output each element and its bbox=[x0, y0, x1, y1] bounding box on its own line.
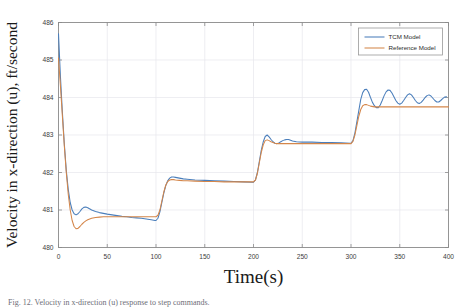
legend-label-reference-model[interactable]: Reference Model bbox=[389, 44, 436, 51]
y-tick-label: 484 bbox=[42, 94, 53, 101]
y-axis-label: Velocity in x-direction (u), ft/second bbox=[3, 22, 21, 248]
x-tick-label: 300 bbox=[345, 253, 356, 260]
x-tick-label: 50 bbox=[104, 253, 112, 260]
grid-lines bbox=[59, 23, 449, 248]
x-tick-label: 350 bbox=[394, 253, 405, 260]
x-tick-label: 200 bbox=[248, 253, 259, 260]
chart-legend[interactable]: TCM ModelReference Model bbox=[359, 28, 443, 55]
caption-line: Fig. 12. Velocity in x-direction (u) res… bbox=[8, 298, 210, 307]
y-tick-label: 486 bbox=[42, 19, 53, 26]
series-line-tcm-model bbox=[59, 34, 447, 221]
figure-caption: Fig. 12. Velocity in x-direction (u) res… bbox=[8, 298, 210, 307]
y-axis-tick-labels: 480481482483484485486 bbox=[42, 19, 53, 251]
x-axis-label: Time(s) bbox=[224, 266, 283, 288]
y-tick-label: 481 bbox=[42, 206, 53, 213]
y-tick-label: 483 bbox=[42, 131, 53, 138]
y-tick-label: 480 bbox=[42, 244, 53, 251]
x-tick-label: 0 bbox=[57, 253, 61, 260]
legend-label-tcm-model[interactable]: TCM Model bbox=[389, 33, 421, 40]
y-tick-label: 482 bbox=[42, 169, 53, 176]
x-tick-label: 150 bbox=[199, 253, 210, 260]
y-tick-label: 485 bbox=[42, 56, 53, 63]
x-tick-label: 400 bbox=[443, 253, 454, 260]
x-tick-label: 250 bbox=[297, 253, 308, 260]
x-axis-tick-labels: 050100150200250300350400 bbox=[57, 253, 455, 260]
figure-container: 480481482483484485486 050100150200250300… bbox=[0, 0, 467, 307]
velocity-response-chart: 480481482483484485486 050100150200250300… bbox=[0, 0, 467, 307]
x-tick-label: 100 bbox=[150, 253, 161, 260]
